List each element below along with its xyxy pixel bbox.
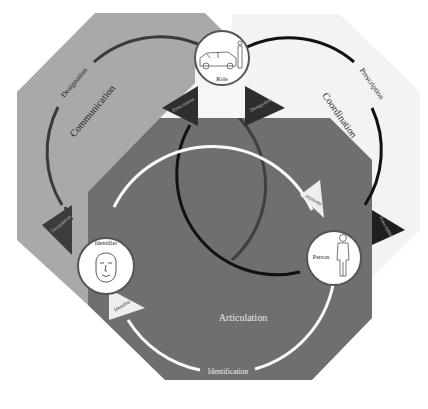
identifier-node[interactable]: Identifier	[78, 238, 134, 294]
identifier-label: Identifier	[95, 240, 117, 246]
semiotic-triad-diagram: Prescription Designation Designation Pre…	[0, 0, 428, 409]
person-node[interactable]: Person	[307, 231, 361, 285]
articulation-label: Articulation	[219, 312, 267, 323]
identification-ring-label: Identification	[208, 367, 249, 376]
role-label: Role	[216, 76, 228, 82]
role-node[interactable]: Role	[195, 31, 249, 85]
person-label: Person	[313, 254, 329, 260]
